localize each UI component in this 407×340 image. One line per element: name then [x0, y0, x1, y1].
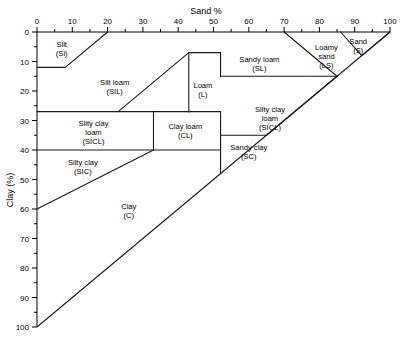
- region-label-sandy-loam: Sandy loam(SL): [239, 55, 279, 73]
- region-label-sandy-clay: Sandy clay(SC): [230, 143, 267, 161]
- sand-tick-label: 40: [174, 17, 183, 26]
- region-label-line: (LS): [319, 61, 334, 70]
- region-label-line: Silt: [56, 40, 67, 49]
- clay-tick-label: 80: [20, 264, 29, 273]
- region-label-line: (C): [124, 211, 135, 220]
- region-label-line: Loam: [193, 81, 212, 90]
- region-label-sand: Sand(S): [349, 37, 367, 55]
- sand-axis-title: Sand %: [190, 6, 222, 16]
- region-label-silt: Silt(Si): [56, 40, 68, 58]
- region-label-line: Clay loam: [168, 122, 202, 131]
- region-label-line: Sand: [349, 37, 367, 46]
- region-label-line: loam: [85, 128, 101, 137]
- sand-tick-label: 60: [244, 17, 253, 26]
- soil-texture-triangle-diagram: 0102030405060708090100010203040506070809…: [0, 0, 407, 340]
- region-label-line: Silty clay: [255, 105, 285, 114]
- region-label-line: Sandy loam: [239, 55, 279, 64]
- sand-tick-label: 100: [383, 17, 397, 26]
- region-label-line: Silty clay: [68, 158, 98, 167]
- clay-tick-label: 100: [16, 323, 30, 332]
- clay-tick-label: 70: [20, 235, 29, 244]
- region-label-line: (SIL): [106, 87, 123, 96]
- boundary-hypotenuse: [37, 32, 390, 327]
- axis-ticks: [32, 27, 390, 327]
- region-label-line: (SL): [252, 64, 267, 73]
- clay-tick-label: 40: [20, 146, 29, 155]
- region-label-silty-clay-loam: Silty clayloam(SICL): [78, 119, 108, 146]
- region-label-line: Clay: [121, 202, 136, 211]
- clay-tick-label: 20: [20, 87, 29, 96]
- region-label-line: Silty clay: [78, 119, 108, 128]
- region-label-silty-clay-loam-right: Silty clayloam(SICL): [255, 105, 285, 132]
- region-label-clay: Clay(C): [121, 202, 136, 220]
- clay-tick-label: 90: [20, 294, 29, 303]
- region-label-line: Silt loam: [100, 78, 129, 87]
- region-label-line: (L): [198, 90, 208, 99]
- region-label-loam: Loam(L): [193, 81, 212, 99]
- sand-tick-label: 30: [138, 17, 147, 26]
- sand-tick-label: 20: [103, 17, 112, 26]
- sand-tick-label: 10: [68, 17, 77, 26]
- region-label-line: sand: [318, 52, 334, 61]
- texture-class-labels: Silt(Si)Silt loam(SIL)Loam(L)Sandy loam(…: [56, 37, 367, 220]
- clay-axis-title: Clay (%): [5, 173, 15, 208]
- sand-tick-label: 70: [280, 17, 289, 26]
- region-label-line: loam: [262, 114, 278, 123]
- region-label-line: Loamy: [315, 43, 338, 52]
- clay-tick-label: 30: [20, 117, 29, 126]
- region-label-loamy-sand: Loamysand(LS): [315, 43, 338, 70]
- region-label-silty-clay: Silty clay(SIC): [68, 158, 98, 176]
- clay-tick-label: 10: [20, 58, 29, 67]
- clay-tick-label: 60: [20, 205, 29, 214]
- region-label-line: (CL): [178, 131, 193, 140]
- sand-tick-label: 0: [35, 17, 40, 26]
- texture-class-boundaries: [37, 32, 390, 327]
- region-label-line: Sandy clay: [230, 143, 267, 152]
- region-label-line: (SC): [241, 152, 257, 161]
- region-label-line: (Si): [56, 49, 68, 58]
- region-label-line: (S): [353, 46, 364, 55]
- sand-tick-label: 80: [315, 17, 324, 26]
- boundary-silt-diagonal: [37, 32, 108, 67]
- sand-tick-label: 90: [350, 17, 359, 26]
- region-label-line: (SIC): [74, 167, 92, 176]
- region-label-line: (SICL): [83, 137, 105, 146]
- region-label-clay-loam: Clay loam(CL): [168, 122, 202, 140]
- clay-tick-label: 0: [25, 28, 30, 37]
- region-label-silt-loam: Silt loam(SIL): [100, 78, 129, 96]
- sand-tick-label: 50: [209, 17, 218, 26]
- soil-texture-svg: 0102030405060708090100010203040506070809…: [0, 0, 407, 340]
- region-label-line: (SICL): [259, 123, 281, 132]
- axis-tick-labels: 0102030405060708090100010203040506070809…: [16, 17, 398, 332]
- clay-tick-label: 50: [20, 176, 29, 185]
